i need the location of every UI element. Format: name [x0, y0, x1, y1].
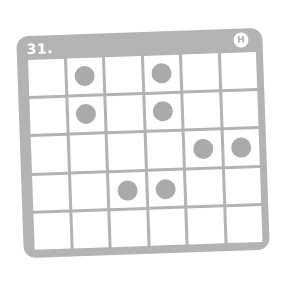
- grid-cell-r4-c0[interactable]: [33, 213, 70, 250]
- dot-icon: [76, 104, 97, 125]
- grid-cell-r4-c3[interactable]: [149, 209, 186, 246]
- grid-cell-r1-c1[interactable]: [68, 96, 105, 133]
- grid-cell-r3-c4[interactable]: [186, 169, 223, 206]
- dot-icon: [151, 63, 172, 84]
- grid-cell-r0-c0[interactable]: [28, 59, 65, 96]
- dot-icon: [75, 65, 96, 86]
- dot-icon: [153, 101, 174, 122]
- grid-cell-r1-c4[interactable]: [183, 92, 220, 129]
- grid-cell-r4-c4[interactable]: [187, 208, 224, 245]
- dot-icon: [156, 178, 177, 199]
- grid-cell-r0-c2[interactable]: [105, 56, 142, 93]
- grid-cell-r3-c3[interactable]: [148, 170, 185, 207]
- grid-cell-r2-c3[interactable]: [146, 132, 183, 169]
- grid-cell-r0-c5[interactable]: [220, 52, 257, 89]
- grid-cell-r4-c2[interactable]: [110, 210, 147, 247]
- grid-cell-r3-c5[interactable]: [224, 168, 261, 205]
- grid-cell-r3-c0[interactable]: [32, 174, 69, 211]
- puzzle-grid: [28, 52, 262, 250]
- grid-cell-r0-c3[interactable]: [143, 55, 180, 92]
- dot-icon: [193, 139, 214, 160]
- puzzle-number: 31.: [26, 40, 53, 57]
- grid-cell-r3-c2[interactable]: [109, 172, 146, 209]
- grid-cell-r2-c5[interactable]: [223, 129, 260, 166]
- difficulty-badge-icon: H: [233, 32, 249, 48]
- grid-cell-r4-c5[interactable]: [226, 206, 263, 243]
- grid-cell-r3-c1[interactable]: [71, 173, 108, 210]
- grid-cell-r2-c4[interactable]: [185, 130, 222, 167]
- grid-cell-r2-c2[interactable]: [108, 133, 145, 170]
- grid-cell-r0-c4[interactable]: [182, 53, 219, 90]
- grid-cell-r1-c3[interactable]: [145, 93, 182, 130]
- puzzle-card: 31. H: [16, 28, 270, 258]
- grid-cell-r1-c0[interactable]: [29, 97, 66, 134]
- grid-cell-r2-c1[interactable]: [69, 135, 106, 172]
- grid-cell-r1-c5[interactable]: [222, 91, 259, 128]
- grid-cell-r0-c1[interactable]: [67, 57, 104, 94]
- dot-icon: [231, 137, 252, 158]
- dot-icon: [117, 180, 138, 201]
- grid-cell-r2-c0[interactable]: [31, 136, 68, 173]
- grid-cell-r1-c2[interactable]: [106, 95, 143, 132]
- grid-cell-r4-c1[interactable]: [72, 212, 109, 249]
